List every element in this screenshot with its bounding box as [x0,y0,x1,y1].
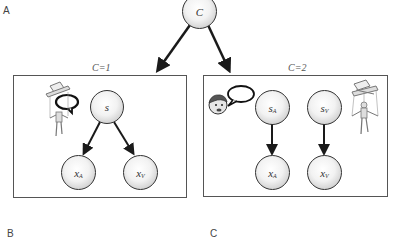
edge-c-to-plate2 [208,25,229,70]
node-xV-plate2: xV [307,155,342,190]
edge-s-to-xA [84,122,100,153]
marionette-puppet-icon [346,78,384,140]
node-sA: sA [255,90,290,125]
node-c-label: C [196,6,203,18]
edge-c-to-plate1 [158,25,190,70]
node-xA-plate1: xA [61,155,96,190]
ventriloquist-puppet-icon [42,78,86,140]
node-sV: sV [307,90,342,125]
node-s: s [90,90,124,124]
node-xA-plate2: xA [255,155,290,190]
node-xV-plate1: xV [123,155,158,190]
speaking-face-icon [206,84,256,116]
edge-s-to-xV [114,122,133,153]
